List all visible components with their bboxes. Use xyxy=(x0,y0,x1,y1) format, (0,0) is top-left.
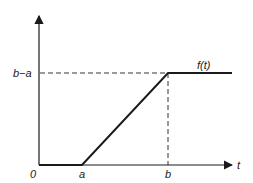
x-axis-label: t xyxy=(237,159,241,171)
ramp-function-diagram: f(t) t 0 a b b−a xyxy=(0,0,253,183)
function-label: f(t) xyxy=(197,59,211,71)
x-tick-label-b: b xyxy=(165,168,171,180)
y-tick-label-b-minus-a: b−a xyxy=(13,67,32,79)
function-curve xyxy=(39,73,232,165)
x-tick-label-a: a xyxy=(79,168,85,180)
origin-label: 0 xyxy=(30,168,37,180)
